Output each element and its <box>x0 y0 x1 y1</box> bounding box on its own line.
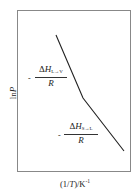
fraction-denominator: R <box>35 78 67 89</box>
transition-subscript: L→V <box>51 69 63 74</box>
x-label-unit: )/K <box>74 179 85 189</box>
fraction-numerator: ΔHS→L <box>64 121 98 135</box>
phase-diagram-plot: lnP (1/T)/K-1 - ΔHL→V R - ΔHS→L R <box>0 0 140 195</box>
minus-sign: - <box>28 74 31 83</box>
y-axis-label: lnP <box>8 78 18 108</box>
x-axis-label: (1/T)/K-1 <box>40 178 110 189</box>
x-label-exp: -1 <box>85 178 90 184</box>
y-label-var: P <box>8 87 18 93</box>
y-label-ln: ln <box>8 92 18 99</box>
fraction-numerator: ΔHL→V <box>35 64 67 78</box>
x-label-open: (1/ <box>60 179 69 189</box>
minus-sign: - <box>58 131 61 140</box>
slope-annotation-solid-liquid: - ΔHS→L R <box>64 121 98 146</box>
plot-lines <box>0 0 140 195</box>
fraction-denominator: R <box>64 135 98 146</box>
transition-subscript: S→L <box>82 126 93 131</box>
slope-annotation-liquid-vapor: - ΔHL→V R <box>35 64 67 89</box>
